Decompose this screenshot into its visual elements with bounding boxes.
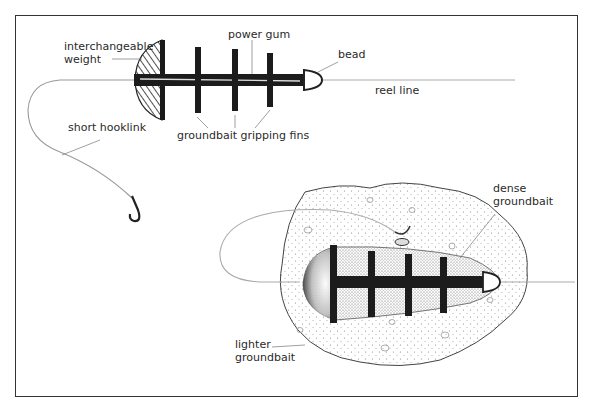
label-bead: bead <box>338 48 365 61</box>
fin <box>368 251 375 317</box>
fin <box>195 47 201 113</box>
label-fins: groundbait gripping fins <box>177 129 309 142</box>
fin <box>405 254 412 316</box>
fin <box>232 49 238 111</box>
label-power-gum: power gum <box>228 28 290 41</box>
label-weight-line2: weight <box>64 53 153 66</box>
fin <box>440 257 447 313</box>
hooklink-line <box>28 80 135 198</box>
label-lighter-groundbait: lighter groundbait <box>235 338 295 364</box>
bead-icon <box>304 70 322 90</box>
fin <box>267 53 273 107</box>
hook-icon <box>130 196 140 221</box>
hookbait <box>395 239 409 246</box>
label-weight-line1: interchangeable <box>64 40 153 53</box>
leader-line <box>62 140 100 155</box>
leader-line <box>318 62 338 72</box>
fin <box>330 245 337 323</box>
label-dense-groundbait: dense groundbait <box>493 182 553 208</box>
label-weight: interchangeable weight <box>64 40 153 66</box>
label-lighter-line1: lighter <box>235 338 295 351</box>
label-hooklink: short hooklink <box>68 121 146 134</box>
leader-line <box>197 117 208 128</box>
label-dense-line1: dense <box>493 182 553 195</box>
label-reel-line: reel line <box>375 84 419 97</box>
label-dense-line2: groundbait <box>493 195 553 208</box>
label-lighter-line2: groundbait <box>235 351 295 364</box>
leader-line <box>255 110 270 128</box>
